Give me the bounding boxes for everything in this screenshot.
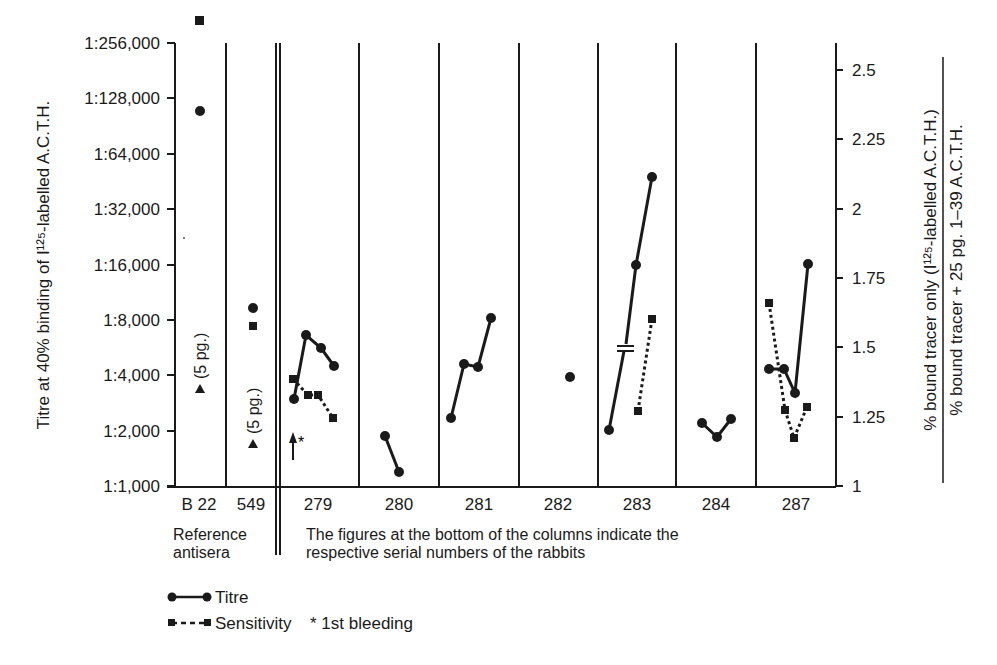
chart-figure: 1:256,000 1:128,000 1:64,000 1:32,000 1:…: [0, 0, 997, 665]
titre-marker: [779, 364, 789, 374]
column-label-281: 281: [465, 495, 493, 514]
titre-line: [451, 318, 491, 418]
legend-item-sensitivity: Sensitivity: [168, 614, 292, 633]
column-b22-data: (5 pg.): [192, 16, 209, 393]
column-287-data: [764, 259, 813, 442]
titre-line: [385, 436, 399, 472]
column-label-279: 279: [304, 495, 332, 514]
column-dividers: [226, 43, 756, 555]
legend-label-titre: Titre: [215, 588, 248, 607]
right-axis-title: % bound tracer only (I¹²⁵-labelled A.C.T…: [921, 57, 966, 483]
sensitivity-marker: [304, 391, 312, 399]
sensitivity-line: [293, 379, 333, 418]
column-282-data: [565, 372, 575, 382]
tick-label: 1.5: [852, 338, 876, 357]
legend-circle-icon: [203, 593, 212, 602]
right-axis-title-denominator: % bound tracer + 25 pg. 1–39 A.C.T.H.: [947, 124, 966, 416]
titre-marker: [380, 431, 390, 441]
legend-label-sensitivity: Sensitivity: [215, 614, 292, 633]
left-axis-ticks: 1:256,000 1:128,000 1:64,000 1:32,000 1:…: [84, 34, 160, 496]
titre-marker: [803, 259, 813, 269]
titre-line: [609, 351, 624, 430]
asterisk-marker: *: [298, 434, 304, 451]
sensitivity-marker: [803, 403, 811, 411]
column-label-549: 549: [237, 495, 265, 514]
titre-marker: [631, 260, 641, 270]
arrow-head-icon: [289, 432, 297, 443]
five-pg-label: (5 pg.): [192, 333, 209, 379]
right-axis: [836, 43, 843, 487]
right-axis-title-numerator: % bound tracer only (I¹²⁵-labelled A.C.T…: [921, 109, 940, 431]
titre-marker: [726, 414, 736, 424]
tick-label: 2: [852, 200, 861, 219]
tick-label: 1:8,000: [103, 311, 160, 330]
left-axis: [167, 43, 175, 487]
titre-marker: [329, 361, 339, 371]
tick-label: 1:16,000: [94, 256, 160, 275]
titre-marker: [446, 413, 456, 423]
titre-marker: [604, 425, 614, 435]
tick-label: 1:1,000: [103, 477, 160, 496]
sensitivity-marker: [195, 16, 204, 25]
sensitivity-marker: [634, 407, 642, 415]
tick-label: 1.25: [852, 408, 885, 427]
left-axis-title: Titre at 40% binding of I¹²⁵-labelled A.…: [34, 101, 53, 430]
sensitivity-marker: [329, 414, 337, 422]
tick-label: 1:32,000: [94, 200, 160, 219]
tick-label: 1:256,000: [84, 34, 160, 53]
legend-circle-icon: [168, 593, 177, 602]
titre-marker: [712, 432, 722, 442]
titre-marker: [289, 394, 299, 404]
tick-label: 1: [852, 477, 861, 496]
titre-marker: [565, 372, 575, 382]
five-pg-label: (5 pg.): [245, 388, 262, 434]
column-label-b22: B 22: [182, 495, 217, 514]
column-label-287: 287: [782, 495, 810, 514]
titre-marker: [195, 106, 205, 116]
column-283-data: [604, 172, 657, 435]
titre-line: [769, 264, 808, 393]
titre-marker: [394, 467, 404, 477]
note-line2: respective serial numbers of the rabbits: [306, 544, 585, 561]
tick-label: 1:2,000: [103, 422, 160, 441]
triangle-marker: [195, 384, 205, 393]
right-axis-ticks: 2.5 2.25 2 1.75 1.5 1.25 1: [852, 61, 885, 496]
legend-square-icon: [204, 619, 211, 626]
titre-marker: [790, 388, 800, 398]
titre-marker: [486, 313, 496, 323]
column-279-data: *: [289, 330, 339, 460]
titre-marker: [301, 330, 311, 340]
titre-marker: [316, 343, 326, 353]
legend: Titre Sensitivity * 1st bleeding: [168, 588, 414, 633]
titre-line: [294, 335, 334, 399]
legend-square-icon: [168, 619, 175, 626]
tick-label: 1:4,000: [103, 366, 160, 385]
column-label-280: 280: [385, 495, 413, 514]
tick-label: 1:128,000: [84, 89, 160, 108]
sensitivity-marker: [249, 322, 257, 330]
sensitivity-marker: [314, 391, 322, 399]
sensitivity-line: [638, 319, 652, 411]
column-label-284: 284: [702, 495, 730, 514]
titre-marker: [647, 172, 657, 182]
note-line1: The figures at the bottom of the columns…: [306, 526, 679, 543]
speck: [183, 237, 185, 239]
column-281-data: [446, 313, 496, 423]
tick-label: 1.75: [852, 269, 885, 288]
column-284-data: [697, 414, 736, 442]
column-label-282: 282: [544, 495, 572, 514]
column-label-283: 283: [623, 495, 651, 514]
titre-marker: [473, 362, 483, 372]
titre-marker: [697, 418, 707, 428]
titre-marker: [248, 303, 258, 313]
legend-item-titre: Titre: [168, 588, 249, 607]
sensitivity-marker: [781, 406, 789, 414]
tick-label: 2.5: [852, 61, 876, 80]
reference-label-line2: antisera: [173, 544, 230, 561]
sensitivity-marker: [790, 434, 798, 442]
reference-label-line1: Reference: [173, 526, 247, 543]
tick-label: 2.25: [852, 130, 885, 149]
legend-label-first-bleeding: * 1st bleeding: [310, 614, 413, 633]
column-549-data: (5 pg.): [245, 303, 262, 448]
sensitivity-marker: [765, 299, 773, 307]
